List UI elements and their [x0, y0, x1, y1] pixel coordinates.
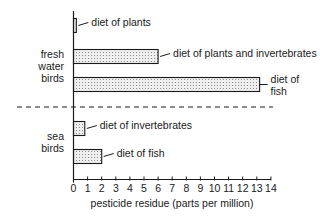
x-tick-label: 1 [85, 182, 91, 194]
x-tick-label: 2 [99, 182, 105, 194]
bar-label: fish [271, 85, 288, 97]
bar [74, 50, 159, 64]
bar [74, 78, 260, 92]
x-tick-label: 4 [127, 182, 133, 194]
leader-line [104, 154, 114, 157]
bar-label: diet of plants [91, 16, 151, 28]
x-tick-label: 6 [155, 182, 161, 194]
x-tick-label: 11 [223, 182, 234, 194]
group-label: fresh [41, 48, 65, 60]
x-axis-title: pesticide residue (parts per million) [91, 197, 254, 209]
x-tick-label: 10 [209, 182, 221, 194]
leader-line [87, 126, 97, 129]
bar-label: diet of [271, 73, 300, 85]
leader-line [78, 23, 88, 26]
axes-layer: 01234567891011121314pesticide residue (p… [17, 11, 277, 209]
x-tick-label: 13 [251, 182, 263, 194]
bar-label: diet of fish [117, 147, 165, 159]
x-tick-label: 7 [169, 182, 175, 194]
bar-label: diet of plants and invertebrates [173, 47, 317, 59]
group-label: birds [41, 142, 64, 154]
x-tick-label: 8 [183, 182, 189, 194]
x-tick-label: 9 [197, 182, 203, 194]
group-label: sea [47, 130, 64, 142]
x-tick-label: 0 [71, 182, 77, 194]
bar [74, 122, 85, 136]
leader-line [160, 54, 170, 57]
pesticide-residue-bar-chart: diet of plantsdiet of plants and inverte… [0, 0, 320, 224]
bar [74, 150, 102, 164]
x-tick-label: 5 [141, 182, 147, 194]
x-tick-label: 12 [237, 182, 249, 194]
bars-layer [74, 19, 260, 164]
group-label: water [37, 60, 64, 72]
x-tick-label: 14 [265, 182, 277, 194]
bar-label: diet of invertebrates [100, 119, 192, 131]
group-label: birds [41, 72, 64, 84]
x-tick-label: 3 [113, 182, 119, 194]
